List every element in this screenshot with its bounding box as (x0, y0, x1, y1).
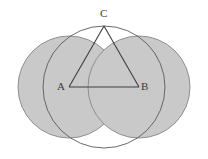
geometry-figure: A B C (0, 0, 208, 159)
vertex-label-b: B (141, 81, 148, 92)
vertex-label-a: A (57, 81, 65, 92)
figure-svg (0, 0, 208, 159)
vertex-label-c: C (100, 8, 107, 19)
